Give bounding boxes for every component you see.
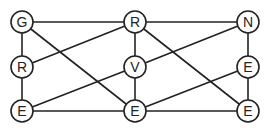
node-label: G — [17, 14, 28, 30]
graph-node: E — [237, 56, 259, 78]
node-label: E — [130, 103, 139, 119]
graph-diagram: GRNRVEEEE — [0, 0, 269, 139]
graph-edge — [22, 22, 135, 111]
node-label: E — [17, 103, 26, 119]
graph-node: V — [124, 56, 146, 78]
graph-edge — [135, 67, 248, 111]
graph-node: R — [124, 11, 146, 33]
graph-node: R — [11, 56, 33, 78]
graph-node: G — [11, 11, 33, 33]
graph-edge — [135, 22, 248, 111]
node-label: E — [243, 59, 252, 75]
graph-edge — [22, 67, 135, 111]
nodes-layer: GRNRVEEEE — [11, 11, 259, 122]
graph-node: N — [237, 11, 259, 33]
node-label: N — [243, 14, 253, 30]
graph-edge — [22, 22, 135, 67]
node-label: E — [243, 103, 252, 119]
graph-edge — [135, 22, 248, 67]
graph-node: E — [237, 100, 259, 122]
graph-canvas: GRNRVEEEE — [0, 0, 269, 139]
graph-node: E — [11, 100, 33, 122]
node-label: R — [130, 14, 140, 30]
node-label: R — [17, 59, 27, 75]
node-label: V — [130, 59, 140, 75]
graph-node: E — [124, 100, 146, 122]
